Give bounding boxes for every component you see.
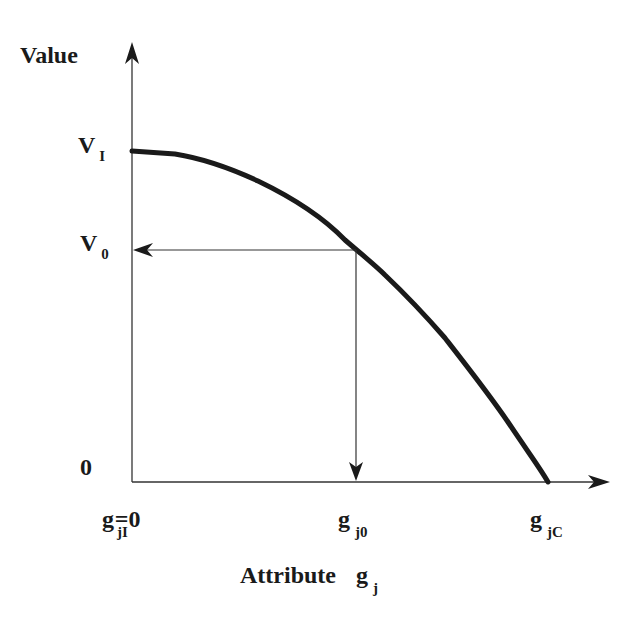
tick-gjI: gjI=0 [102, 506, 151, 533]
tick-gjC-sub: jC [547, 524, 563, 540]
value-function-diagram [0, 0, 637, 629]
x-axis-var-main: g [356, 562, 368, 588]
x-axis-title-text: Attribute [240, 562, 336, 588]
y-axis-title: Value [20, 42, 78, 69]
tick-v-i-main: V [78, 132, 95, 158]
tick-gj0-main: g [338, 506, 350, 532]
tick-gjC-main: g [530, 506, 542, 532]
x-axis-var-sub: j [373, 580, 378, 596]
tick-gjI-suffix: =0 [115, 506, 141, 532]
tick-gj0-sub: j0 [355, 524, 368, 540]
tick-gjI-main: g [102, 506, 114, 532]
tick-v-i-sub: I [99, 148, 105, 164]
value-curve [132, 151, 548, 482]
tick-zero: 0 [80, 454, 92, 481]
tick-gj0: gj0 [338, 506, 363, 533]
tick-v-0-sub: 0 [101, 246, 109, 262]
tick-v-i: VI [78, 132, 101, 159]
tick-gjC: gjC [530, 506, 558, 533]
tick-v-0-main: V [80, 230, 97, 256]
tick-v-0: V0 [80, 230, 105, 257]
x-axis-title: Attributegj [240, 562, 373, 589]
